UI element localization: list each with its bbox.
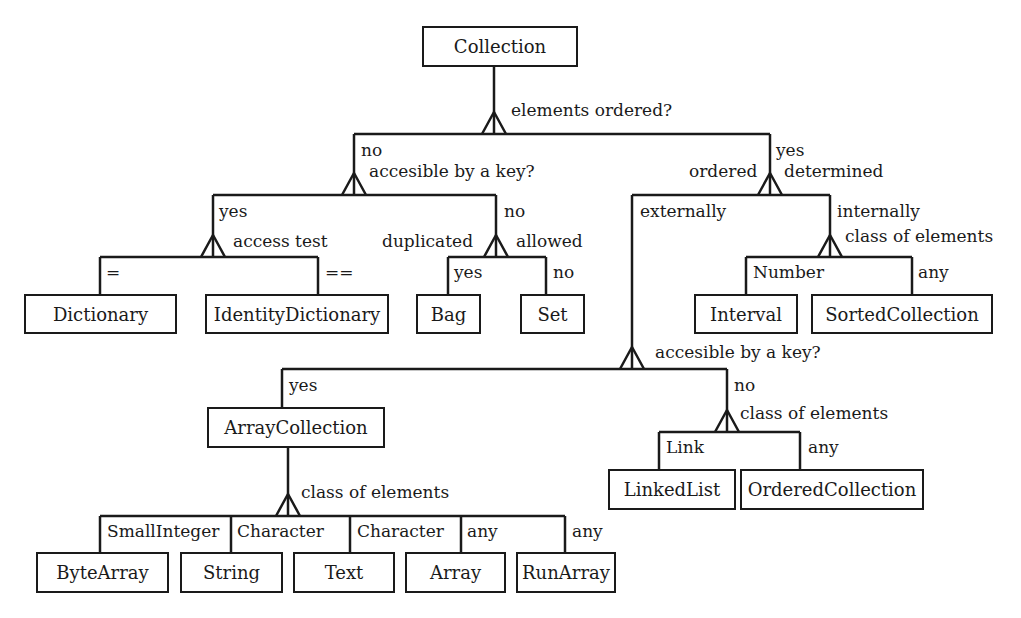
question-class-of-elements-1: class of elements: [845, 228, 993, 245]
question-class-of-elements-2: class of elements: [740, 405, 888, 422]
question-class-of-elements-3: class of elements: [301, 484, 449, 501]
node-run-array: RunArray: [516, 552, 616, 593]
question-ordered: ordered: [689, 163, 757, 180]
node-bag: Bag: [416, 294, 481, 334]
edge-any-2: any: [808, 439, 839, 456]
node-byte-array: ByteArray: [36, 552, 169, 593]
question-elements-ordered: elements ordered?: [511, 102, 672, 119]
node-collection: Collection: [422, 26, 578, 67]
node-identity-dictionary: IdentityDictionary: [205, 294, 389, 334]
edge-internally: internally: [837, 203, 920, 220]
edge-yes-3: yes: [454, 264, 482, 281]
edge-no-2: no: [504, 203, 525, 220]
edge-number: Number: [753, 264, 824, 281]
edge-no-1: no: [361, 142, 382, 159]
node-ordered-collection: OrderedCollection: [740, 469, 924, 510]
edge-no-4: no: [734, 377, 755, 394]
edge-any-4: any: [572, 523, 603, 540]
node-sorted-collection: SortedCollection: [811, 294, 993, 334]
question-duplicated: duplicated: [382, 233, 473, 250]
question-determined: determined: [784, 163, 883, 180]
node-linked-list: LinkedList: [608, 469, 736, 510]
node-set: Set: [520, 294, 585, 334]
edge-eq: =: [106, 264, 120, 281]
edge-small-integer: SmallInteger: [107, 523, 219, 540]
edge-character-1: Character: [237, 523, 324, 540]
question-accessible-key-2: accesible by a key?: [655, 344, 821, 361]
edge-yes-1: yes: [776, 142, 804, 159]
node-array-collection: ArrayCollection: [207, 407, 385, 448]
node-text: Text: [293, 552, 395, 593]
question-access-test: access test: [233, 233, 328, 250]
question-accessible-key-1: accesible by a key?: [369, 163, 535, 180]
edge-yes-4: yes: [289, 377, 317, 394]
node-array: Array: [405, 552, 506, 593]
edge-any-1: any: [918, 264, 949, 281]
edge-no-3: no: [553, 264, 574, 281]
edge-yes-2: yes: [219, 203, 247, 220]
edge-link: Link: [666, 439, 704, 456]
edge-character-2: Character: [357, 523, 444, 540]
question-allowed: allowed: [516, 233, 583, 250]
node-interval: Interval: [694, 294, 798, 334]
edge-externally: externally: [640, 203, 726, 220]
edge-any-3: any: [467, 523, 498, 540]
node-string: String: [180, 552, 283, 593]
node-dictionary: Dictionary: [24, 294, 177, 334]
edge-eqeq: ==: [325, 264, 354, 281]
